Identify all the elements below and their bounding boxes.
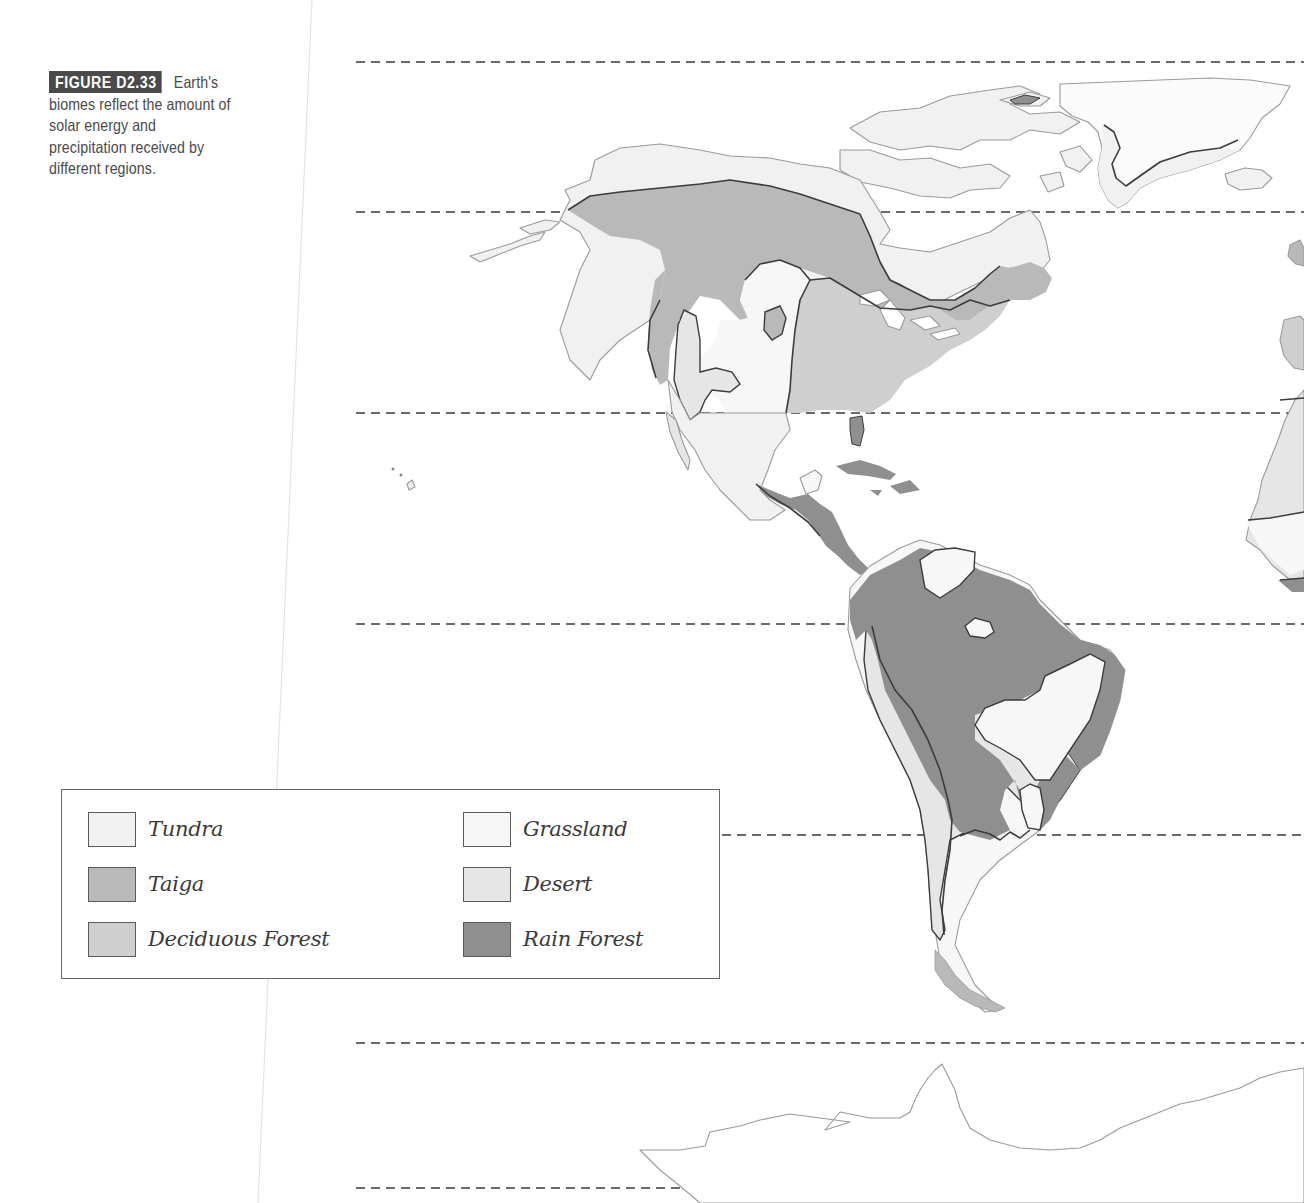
swatch-desert: [463, 867, 511, 902]
caribbean-islands: [836, 460, 920, 496]
legend-label-tundra: Tundra: [148, 817, 223, 841]
legend-item-taiga: Taiga: [88, 865, 204, 903]
europe-edge: [1280, 240, 1304, 370]
swatch-deciduous-forest: [88, 922, 136, 957]
legend-label-taiga: Taiga: [148, 872, 204, 896]
swatch-taiga: [88, 867, 136, 902]
legend: Tundra Taiga Deciduous Forest Grassland …: [61, 789, 720, 979]
legend-label-rain-forest: Rain Forest: [523, 927, 643, 951]
iceland: [1225, 168, 1272, 190]
swatch-tundra: [88, 812, 136, 847]
north-america: [470, 144, 1052, 575]
south-america: [848, 540, 1125, 1012]
legend-item-deciduous-forest: Deciduous Forest: [88, 920, 329, 958]
hawaii: [392, 468, 416, 491]
biome-map: .coast { stroke: #9a9a9a; stroke-width: …: [0, 0, 1304, 1203]
west-africa: [1246, 390, 1304, 592]
legend-label-desert: Desert: [523, 872, 592, 896]
swatch-grassland: [463, 812, 511, 847]
antarctica: [640, 1064, 1304, 1203]
legend-label-deciduous-forest: Deciduous Forest: [148, 927, 329, 951]
swatch-rain-forest: [463, 922, 511, 957]
legend-item-grassland: Grassland: [463, 810, 627, 848]
legend-item-desert: Desert: [463, 865, 592, 903]
arctic-islands: [840, 86, 1092, 198]
legend-item-tundra: Tundra: [88, 810, 223, 848]
legend-label-grassland: Grassland: [523, 817, 627, 841]
legend-item-rain-forest: Rain Forest: [463, 920, 643, 958]
